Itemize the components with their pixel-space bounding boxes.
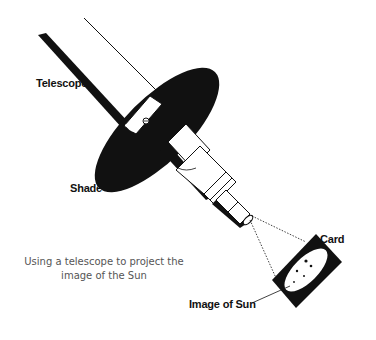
caption-line-2: image of the Sun	[14, 269, 194, 283]
card-label: Card	[320, 233, 344, 245]
figure-caption: Using a telescope to project the image o…	[14, 255, 194, 283]
caption-line-1: Using a telescope to project the	[14, 255, 194, 269]
telescope-label: Telescope	[36, 77, 87, 89]
sunspot	[310, 265, 313, 268]
shade-label: Shade	[70, 182, 102, 194]
light-ray-lower	[250, 220, 276, 278]
sunspot	[293, 281, 295, 283]
image-of-sun-label: Image of Sun	[189, 298, 256, 310]
card	[272, 234, 342, 308]
telescope-tube-edge	[84, 18, 158, 92]
sunspot	[303, 275, 305, 277]
sunspot	[304, 259, 307, 262]
light-ray-upper	[252, 216, 306, 242]
telescope-projection-diagram	[0, 0, 376, 340]
sunspot	[296, 270, 298, 272]
image-of-sun-leader	[252, 286, 290, 303]
